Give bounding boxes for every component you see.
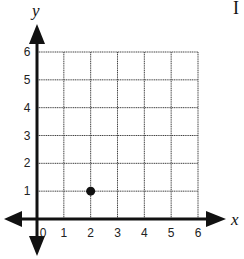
page-fragment-text: I — [233, 0, 239, 18]
arrow-left-icon — [4, 211, 22, 227]
y-tick-labels: 123456 — [24, 45, 31, 198]
x-tick-label: 4 — [141, 226, 148, 240]
arrow-right-icon — [206, 211, 226, 227]
x-tick-labels: 0123456 — [40, 226, 202, 240]
y-tick-label: 5 — [24, 73, 31, 87]
x-tick-label: 3 — [114, 226, 121, 240]
x-axis-label: x — [230, 210, 239, 229]
grid — [37, 52, 198, 219]
data-points — [86, 187, 95, 196]
y-tick-label: 6 — [24, 45, 31, 59]
x-tick-label: 6 — [195, 226, 202, 240]
y-tick-label: 2 — [24, 156, 31, 170]
y-axis — [29, 24, 45, 256]
data-point — [86, 187, 95, 196]
y-tick-label: 4 — [24, 101, 31, 115]
x-tick-label: 1 — [60, 226, 67, 240]
y-tick-label: 1 — [24, 184, 31, 198]
x-tick-label: 0 — [40, 226, 47, 240]
coordinate-plane: I y x 0123456 123456 — [0, 0, 244, 259]
y-axis-label: y — [30, 1, 40, 20]
x-tick-label: 5 — [168, 226, 175, 240]
y-tick-label: 3 — [24, 129, 31, 143]
x-tick-label: 2 — [87, 226, 94, 240]
arrow-up-icon — [29, 24, 45, 44]
